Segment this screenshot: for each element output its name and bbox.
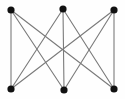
graph-node-t3 xyxy=(110,6,117,13)
graph-edge-t1-b2 xyxy=(11,10,64,90)
graph-node-b3 xyxy=(110,85,117,92)
graph-canvas xyxy=(0,0,125,99)
graph-edge-t2-b3 xyxy=(63,9,114,89)
graph-node-b1 xyxy=(7,85,14,92)
graph-node-t2 xyxy=(59,5,66,12)
graph-diagram-figure xyxy=(0,0,125,99)
graph-node-b2 xyxy=(60,86,67,93)
graph-node-t1 xyxy=(7,6,14,13)
edge-layer xyxy=(11,9,114,90)
